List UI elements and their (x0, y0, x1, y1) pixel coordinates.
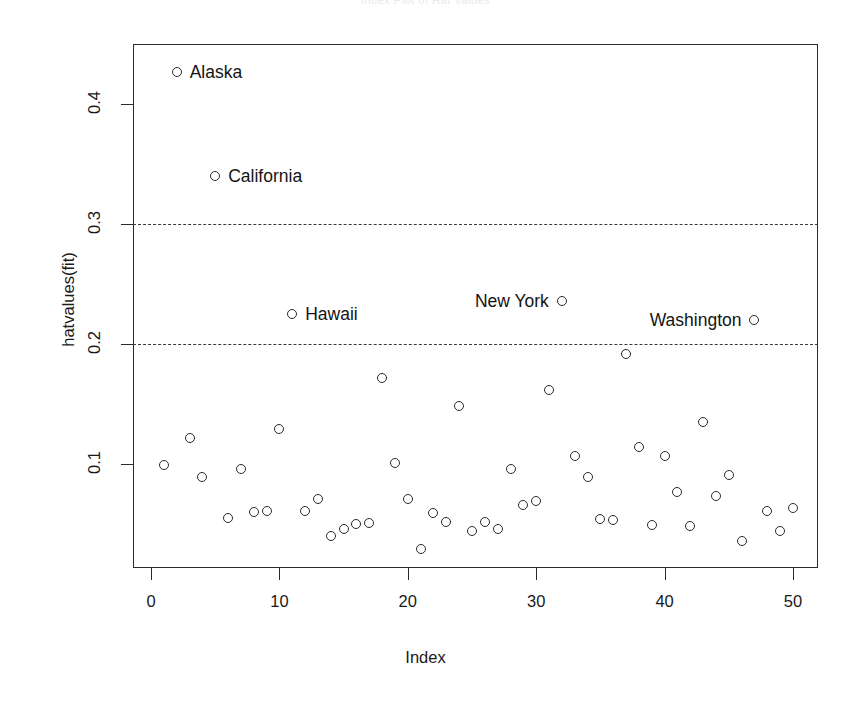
data-point (454, 401, 464, 411)
plot-title: Index Plot of Hat Values (0, 0, 851, 6)
data-point (621, 349, 631, 359)
x-tick-mark (536, 568, 537, 580)
data-point (749, 315, 759, 325)
point-label-new-york: New York (475, 290, 549, 311)
x-tick-mark (665, 568, 666, 580)
data-point (377, 373, 387, 383)
data-point (274, 424, 284, 434)
y-tick-mark (121, 344, 133, 345)
data-point (544, 385, 554, 395)
data-point (660, 451, 670, 461)
y-tick-label: 0.2 (85, 321, 104, 365)
data-point (236, 464, 246, 474)
y-tick-label: 0.3 (85, 201, 104, 245)
x-tick-label: 20 (388, 592, 428, 611)
x-tick-mark (279, 568, 280, 580)
data-point (428, 508, 438, 518)
reference-line-two-times-average-leverage (133, 344, 818, 345)
data-point (634, 442, 644, 452)
data-point (518, 500, 528, 510)
data-point (788, 503, 798, 513)
data-point (737, 536, 747, 546)
data-point (403, 494, 413, 504)
data-point (223, 513, 233, 523)
data-point (698, 417, 708, 427)
x-tick-label: 0 (131, 592, 171, 611)
data-point (685, 521, 695, 531)
data-point (762, 506, 772, 516)
data-point (287, 309, 297, 319)
data-point (775, 526, 785, 536)
x-tick-mark (793, 568, 794, 580)
data-point (339, 524, 349, 534)
y-tick-mark (121, 464, 133, 465)
point-label-washington: Washington (650, 310, 742, 331)
data-point (390, 458, 400, 468)
x-tick-label: 10 (259, 592, 299, 611)
data-point (647, 520, 657, 530)
y-axis-label: hatvalues(fit) (59, 220, 78, 380)
y-tick-mark (121, 104, 133, 105)
data-point (172, 67, 182, 77)
data-point (351, 519, 361, 529)
point-label-hawaii: Hawaii (305, 304, 358, 325)
data-point (570, 451, 580, 461)
data-point (557, 296, 567, 306)
y-tick-label: 0.4 (85, 81, 104, 125)
data-point (364, 518, 374, 528)
data-point (210, 171, 220, 181)
data-point (249, 507, 259, 517)
data-point (724, 470, 734, 480)
data-point (467, 526, 477, 536)
data-point (583, 472, 593, 482)
x-tick-mark (408, 568, 409, 580)
data-point (416, 544, 426, 554)
data-point (313, 494, 323, 504)
data-point (672, 487, 682, 497)
data-point (480, 517, 490, 527)
data-point (185, 433, 195, 443)
data-point (197, 472, 207, 482)
x-tick-label: 50 (773, 592, 813, 611)
reference-line-three-times-average-leverage (133, 224, 818, 225)
x-tick-label: 30 (516, 592, 556, 611)
plot-area: AlaskaCaliforniaHawaiiNew YorkWashington (133, 44, 818, 568)
x-tick-mark (151, 568, 152, 580)
data-point (595, 514, 605, 524)
x-tick-label: 40 (645, 592, 685, 611)
point-label-alaska: Alaska (190, 61, 243, 82)
point-label-california: California (228, 166, 302, 187)
data-point (326, 531, 336, 541)
data-point (711, 491, 721, 501)
data-point (262, 506, 272, 516)
data-point (531, 496, 541, 506)
data-point (608, 515, 618, 525)
data-point (159, 460, 169, 470)
data-point (493, 524, 503, 534)
y-tick-label: 0.1 (85, 441, 104, 485)
data-point (506, 464, 516, 474)
y-tick-mark (121, 224, 133, 225)
x-axis-label: Index (0, 648, 851, 667)
index-plot-figure: Index Plot of Hat Values hatvalues(fit) … (0, 0, 851, 705)
data-point (441, 517, 451, 527)
data-point (300, 506, 310, 516)
